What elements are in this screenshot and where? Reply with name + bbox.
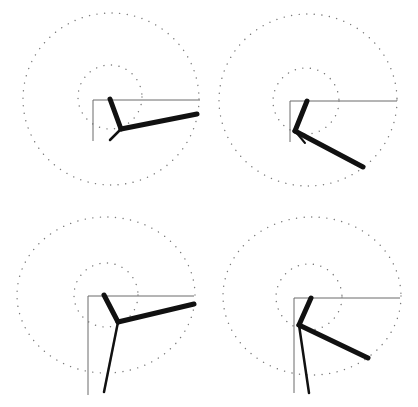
diagram-canvas — [0, 0, 418, 407]
panel-top-right — [219, 14, 397, 186]
panel-bottom-right — [223, 217, 401, 393]
link-segment-1 — [295, 101, 307, 131]
link-segment-2 — [121, 114, 197, 129]
link-segment-3 — [110, 129, 121, 140]
link-segment-2 — [118, 304, 194, 322]
reference-axes — [93, 100, 200, 141]
link-segment-2 — [295, 131, 363, 167]
link-segment-3 — [104, 322, 118, 392]
panel-bottom-left — [17, 217, 195, 395]
link-segment-1 — [299, 298, 311, 325]
link-segment-1 — [104, 295, 118, 322]
link-segment-1 — [110, 99, 121, 129]
link-segment-2 — [299, 325, 368, 358]
reference-axes — [88, 296, 194, 395]
panel-top-left — [23, 13, 200, 185]
link-segment-3 — [299, 325, 309, 393]
